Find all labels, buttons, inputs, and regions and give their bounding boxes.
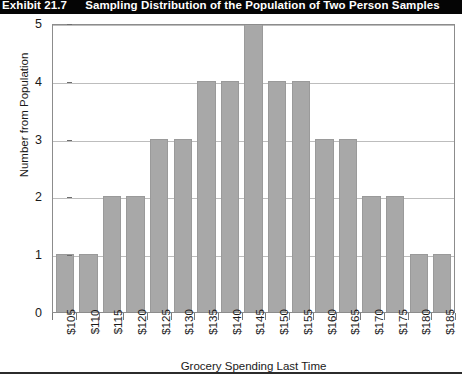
bar (150, 139, 168, 312)
x-tick-mark (360, 313, 361, 320)
bar-cell (218, 25, 242, 312)
x-tick-mark (76, 313, 77, 320)
bottom-rule (0, 372, 462, 374)
y-tick-mark (67, 197, 72, 198)
y-tick-mark (67, 24, 72, 25)
bar-cell (100, 25, 124, 312)
bar (433, 254, 451, 312)
x-tick-mark (147, 313, 148, 320)
y-tick-mark (67, 255, 72, 256)
bar-cell (336, 25, 360, 312)
exhibit-banner: Exhibit 21.7Sampling Distribution of the… (0, 0, 462, 14)
exhibit-banner-text: Exhibit 21.7Sampling Distribution of the… (2, 0, 440, 12)
y-tick-mark (67, 140, 72, 141)
x-tick-mark (431, 313, 432, 320)
x-tick-mark (336, 313, 337, 320)
bar (244, 24, 262, 312)
bar-cell (242, 25, 266, 312)
x-tick-mark (313, 313, 314, 320)
x-tick-mark (218, 313, 219, 320)
bar-cell (77, 25, 101, 312)
bar (339, 139, 357, 312)
bar-cell (360, 25, 384, 312)
y-tick-label: 0 (35, 307, 42, 320)
x-tick-mark (455, 313, 456, 320)
bar (126, 196, 144, 312)
y-axis-tick-labels: 012345 (20, 14, 46, 323)
x-tick-mark (123, 313, 124, 320)
bar-cell (383, 25, 407, 312)
x-tick-mark (242, 313, 243, 320)
y-tick-label: 3 (35, 133, 42, 146)
x-tick-mark (99, 313, 100, 320)
y-tick-label: 1 (35, 249, 42, 262)
x-tick-mark (194, 313, 195, 320)
x-tick-mark (171, 313, 172, 320)
exhibit-title: Sampling Distribution of the Population … (85, 0, 440, 11)
bar-cell (124, 25, 148, 312)
exhibit-number: Exhibit 21.7 (2, 0, 67, 11)
y-tick-mark (67, 313, 72, 314)
bar (386, 196, 404, 312)
y-tick-label: 2 (35, 191, 42, 204)
x-tick-mark (384, 313, 385, 320)
y-tick-mark (67, 82, 72, 83)
bar-cell (289, 25, 313, 312)
x-tick-mark (265, 313, 266, 320)
y-tick-label: 5 (35, 18, 42, 31)
bar (221, 81, 239, 312)
bar (292, 81, 310, 312)
x-axis-title: Grocery Spending Last Time (52, 360, 455, 372)
bar-cell (313, 25, 337, 312)
bar-series (53, 25, 454, 312)
bar (268, 81, 286, 312)
bar-cell (171, 25, 195, 312)
bar (103, 196, 121, 312)
x-tick-mark (289, 313, 290, 320)
plot-area (52, 24, 455, 313)
bar (56, 254, 74, 312)
chart-area: Number from Population 012345 $105$110$1… (0, 14, 462, 376)
bar (410, 254, 428, 312)
bar-cell (407, 25, 431, 312)
bar-cell (265, 25, 289, 312)
bar-cell (195, 25, 219, 312)
bar (79, 254, 97, 312)
bar-cell (431, 25, 455, 312)
bar (197, 81, 215, 312)
bar-cell (147, 25, 171, 312)
bar (315, 139, 333, 312)
bar-cell (53, 25, 77, 312)
x-tick-mark (408, 313, 409, 320)
bar (174, 139, 192, 312)
bar (362, 196, 380, 312)
y-tick-label: 4 (35, 76, 42, 89)
x-tick-mark (52, 313, 53, 320)
